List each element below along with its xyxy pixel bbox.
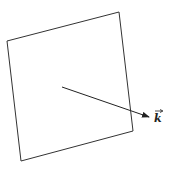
diagram-canvas: k <box>0 0 174 169</box>
vector-label: k <box>154 110 163 126</box>
wave-vector-arrow <box>62 87 149 117</box>
vector-label-k: k <box>154 112 162 125</box>
plane-quadrilateral <box>7 12 133 161</box>
